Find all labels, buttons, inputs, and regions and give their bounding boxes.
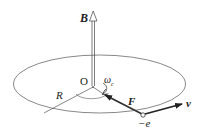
label-b: B xyxy=(80,12,88,24)
label-force: F xyxy=(128,96,135,107)
velocity-arrow xyxy=(145,104,182,114)
label-charge: −e xyxy=(138,118,150,129)
radius-line xyxy=(44,87,93,113)
label-radius: R xyxy=(56,90,63,101)
label-origin: O xyxy=(80,76,88,87)
orbit-ellipse xyxy=(14,55,186,113)
center-point xyxy=(92,86,94,88)
label-velocity: v xyxy=(186,98,191,109)
cyclotron-diagram xyxy=(0,0,199,132)
magnetic-field-arrow xyxy=(90,11,98,86)
label-omega: ωc xyxy=(104,75,114,87)
force-arrow xyxy=(105,95,142,114)
angle-arc xyxy=(76,94,107,99)
